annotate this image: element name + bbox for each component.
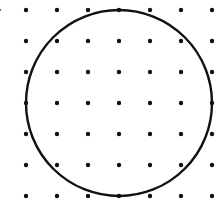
grid-dot [117, 163, 121, 167]
grid-dot [86, 132, 90, 136]
grid-dot [179, 132, 183, 136]
grid-dot [24, 70, 28, 74]
grid-dot [24, 163, 28, 167]
grid-dot [86, 163, 90, 167]
grid-dot [24, 194, 28, 198]
grid-dot [179, 101, 183, 105]
grid-dot [55, 163, 59, 167]
partial-grid-dot [0, 9, 1, 11]
grid-dot [55, 132, 59, 136]
grid-dot [148, 163, 152, 167]
grid-dot [24, 8, 28, 12]
grid-dot [86, 8, 90, 12]
grid-dot [55, 39, 59, 43]
grid-dot [24, 132, 28, 136]
grid-dot [55, 101, 59, 105]
grid-dot [117, 70, 121, 74]
grid-dot [55, 8, 59, 12]
grid-dot [210, 132, 214, 136]
grid-dot [86, 101, 90, 105]
dot-grid [0, 8, 214, 198]
dot-grid-diagram [0, 0, 221, 209]
grid-dot [24, 39, 28, 43]
grid-dot [210, 39, 214, 43]
grid-dot [210, 8, 214, 12]
grid-dot [117, 132, 121, 136]
grid-dot [179, 194, 183, 198]
grid-dot [210, 163, 214, 167]
grid-dot [148, 132, 152, 136]
grid-dot [86, 70, 90, 74]
grid-dot [117, 101, 121, 105]
grid-dot [210, 194, 214, 198]
grid-dot [179, 39, 183, 43]
grid-dot [148, 194, 152, 198]
grid-dot [148, 101, 152, 105]
grid-dot [179, 70, 183, 74]
grid-dot [117, 39, 121, 43]
grid-dot [179, 163, 183, 167]
grid-dot [148, 8, 152, 12]
grid-dot [86, 39, 90, 43]
grid-dot [210, 70, 214, 74]
grid-dot [179, 8, 183, 12]
grid-dot [86, 194, 90, 198]
grid-dot [55, 194, 59, 198]
grid-dot [148, 39, 152, 43]
grid-dot [55, 70, 59, 74]
grid-dot [148, 70, 152, 74]
